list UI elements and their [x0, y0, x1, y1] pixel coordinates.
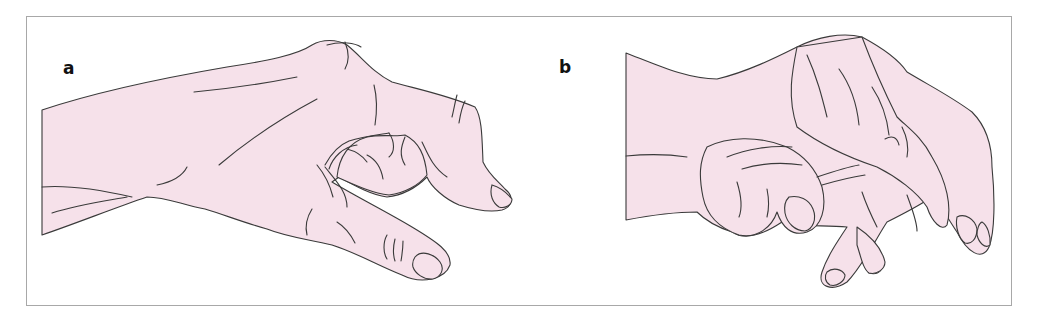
panel-b: b: [520, 17, 1013, 305]
panel-label-b: b: [559, 59, 571, 76]
figure-frame: a b: [26, 16, 1012, 306]
panel-a: a: [27, 17, 520, 305]
panel-label-a: a: [63, 60, 74, 77]
